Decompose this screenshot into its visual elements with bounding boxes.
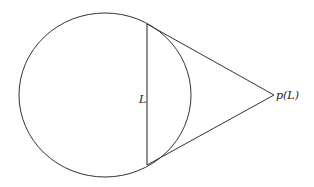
diagram-canvas: L p(L) [0, 0, 314, 187]
chord-label: L [138, 93, 146, 106]
pole-point-label: p(L) [276, 89, 299, 102]
circle [19, 13, 191, 177]
tangent-lower [147, 95, 274, 165]
tangent-upper [147, 24, 274, 95]
